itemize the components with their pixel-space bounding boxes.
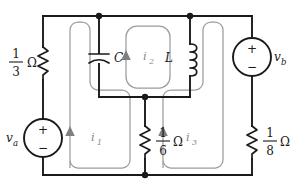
mesh-label-i3-subscript: 3 [192,138,197,147]
resistor-right-unit: Ω [280,135,290,149]
resistor-one-third: 1 3 Ω [9,47,48,80]
inductor-l: L [164,44,197,76]
resistor-middle-unit: Ω [173,135,183,149]
resistor-zigzag-right [247,126,257,159]
mesh-arrow-i1 [65,126,75,136]
capacitor-plate-bottom-curved [89,60,109,63]
node-top-capacitor [96,13,102,19]
voltage-source-vb: + − v b [233,38,286,76]
node-bottom-junction [142,172,148,178]
resistor-zigzag-middle [140,126,150,159]
source-vb-plus-sign: + [247,42,257,56]
source-va-plus-sign: + [38,123,48,137]
resistor-one-sixth: 1 6 Ω [140,126,183,159]
circuit-diagram-page: i 1 i 2 i 3 [0,0,294,192]
source-vb-label: v [274,50,281,64]
resistor-middle-denominator: 6 [159,144,167,158]
mesh-label-i1-letter: i [91,130,95,144]
resistor-left-unit: Ω [27,56,37,70]
source-vb-minus-sign: − [247,60,257,74]
node-top-inductor [187,13,193,19]
mesh-current-i1: i 1 [65,22,130,168]
resistor-middle-numerator: 1 [159,126,167,140]
mesh-label-i2-subscript: 2 [148,57,154,66]
resistor-right-numerator: 1 [266,126,274,140]
capacitor-label: C [114,51,123,65]
mesh-label-i2-letter: i [143,49,147,63]
circuit-schematic: i 1 i 2 i 3 [0,0,294,192]
resistor-left-numerator: 1 [12,47,20,61]
source-va-subscript: a [13,138,18,148]
resistor-zigzag-left [38,47,48,80]
resistor-one-eighth: 1 8 Ω [247,126,290,159]
mesh-label-i1-subscript: 1 [97,138,102,147]
source-vb-subscript: b [281,57,286,67]
voltage-source-va: + − v a [6,119,62,157]
mesh-loop-i2-path [126,26,170,88]
resistor-left-denominator: 3 [12,65,20,79]
source-va-minus-sign: − [38,141,48,155]
inductor-coil [190,44,197,76]
mesh-label-i3-letter: i [186,130,190,144]
resistor-right-denominator: 8 [266,144,274,158]
mesh-current-i2: i 2 [121,26,170,88]
capacitor-c: C [89,51,123,65]
node-middle-junction [142,94,148,100]
inductor-label: L [164,51,173,65]
source-va-label: v [6,131,13,145]
